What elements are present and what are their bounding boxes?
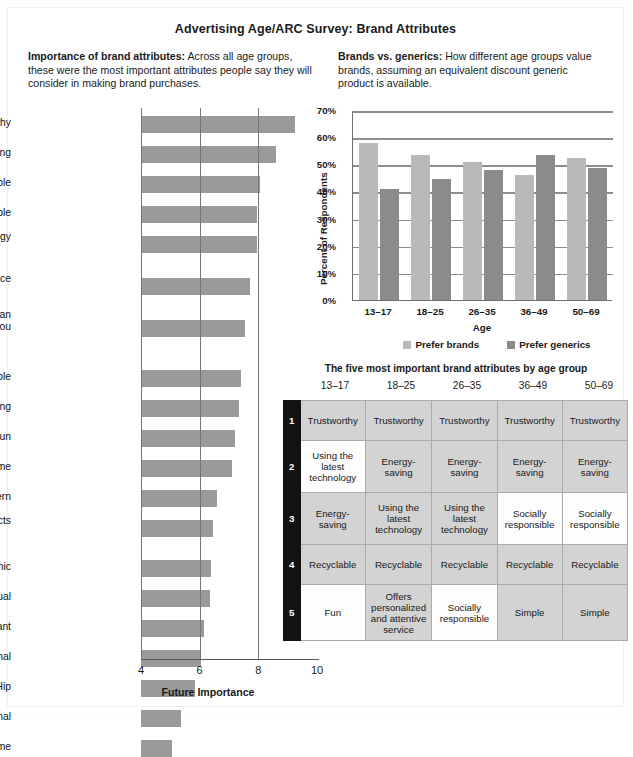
rank-number: 4 xyxy=(284,545,301,585)
table-cell: Simple xyxy=(497,585,562,641)
table-cell: Energy-saving xyxy=(300,493,365,545)
table-cell: Recyclable xyxy=(497,545,562,585)
bar xyxy=(141,740,172,757)
bar xyxy=(141,400,239,417)
bar-label: Personalized or customized products xyxy=(0,515,11,527)
bar-label: Small or space-saving xyxy=(0,401,11,413)
column-bar xyxy=(567,158,586,301)
legend-item: Prefer generics xyxy=(507,339,590,350)
legend-swatch-icon xyxy=(403,341,411,349)
bar xyxy=(141,490,217,507)
chart-legend: Prefer brandsPrefer generics xyxy=(352,339,633,350)
bar-label: Spiritual xyxy=(0,591,11,603)
x-axis-tick: 4 xyxy=(126,664,156,676)
x-axis-tick: 6 xyxy=(185,664,215,676)
bar-label: Trustworthy xyxy=(0,117,11,129)
y-axis-tick: 0% xyxy=(296,295,336,306)
column-bar xyxy=(515,175,534,300)
table-cell: Trustworthy xyxy=(562,401,627,441)
legend-item: Prefer brands xyxy=(403,339,479,350)
legend-label: Prefer brands xyxy=(415,339,479,350)
column-bar xyxy=(463,162,482,300)
bar xyxy=(141,146,276,163)
right-description: Brands vs. generics: How different age g… xyxy=(338,50,603,91)
bar-label: Hip xyxy=(0,681,11,693)
table-column-header: 26–35 xyxy=(435,380,499,391)
y-axis-tick: 60% xyxy=(296,132,336,143)
x-axis-tick: 10 xyxy=(302,664,332,676)
table-cell: Using the latest technology xyxy=(365,493,432,545)
left-description-heading: Importance of brand attributes: xyxy=(28,50,185,62)
bar xyxy=(141,370,241,387)
rank-number: 5 xyxy=(284,585,301,641)
table-title: The five most important brand attributes… xyxy=(287,363,625,374)
y-axis-tick: 70% xyxy=(296,105,336,116)
y-axis-tick: 30% xyxy=(296,214,336,225)
gridline xyxy=(353,111,613,113)
column-bar xyxy=(359,143,378,300)
table-column-headers: 13–1718–2526–3536–4950–69 xyxy=(283,380,628,400)
gridline xyxy=(200,108,201,659)
bar-label: Elegant xyxy=(0,621,11,633)
rank-number: 1 xyxy=(284,401,301,441)
table-row: 4RecyclableRecyclableRecyclableRecyclabl… xyxy=(284,545,628,585)
legend-swatch-icon xyxy=(507,341,515,349)
x-axis-category: 13–17 xyxy=(350,306,406,317)
rank-number: 2 xyxy=(284,441,301,493)
bar xyxy=(141,116,295,133)
bar-label: Multinational xyxy=(0,711,11,723)
bar xyxy=(141,620,204,637)
table-row: 2Using the latest technologyEnergy-savin… xyxy=(284,441,628,493)
column-bar xyxy=(588,168,607,300)
table-cell: Trustworthy xyxy=(365,401,432,441)
bar xyxy=(141,460,232,477)
column-bar xyxy=(380,189,399,300)
brands-vs-generics-chart: Percent of Respondents Age Prefer brands… xyxy=(308,100,633,350)
table-row: 5FunOffers personalized and attentive se… xyxy=(284,585,628,641)
table-cell: Energy-saving xyxy=(562,441,627,493)
table-cell: Energy-saving xyxy=(432,441,497,493)
table-cell: Recyclable xyxy=(365,545,432,585)
table-row: 3Energy-savingUsing the latest technolog… xyxy=(284,493,628,545)
page-title: Advertising Age/ARC Survey: Brand Attrib… xyxy=(8,22,623,36)
bar xyxy=(141,320,245,337)
x-axis-category: 26–35 xyxy=(454,306,510,317)
y-axis-line xyxy=(141,108,142,659)
x-axis-title: Future Importance xyxy=(108,686,308,698)
bar-label: Traditional xyxy=(0,651,11,663)
bar-label: Energy-saving xyxy=(0,147,11,159)
table-cell: Trustworthy xyxy=(497,401,562,441)
bar-label: Simple xyxy=(0,371,11,383)
gridline xyxy=(353,138,613,140)
table-column-header: 18–25 xyxy=(369,380,433,391)
bar-label: Socially responsible xyxy=(0,207,11,219)
column-plot-area xyxy=(352,111,612,301)
bar-label: Offers customer service that makes an ef… xyxy=(0,309,11,332)
column-bar xyxy=(484,170,503,300)
table-cell: Trustworthy xyxy=(300,401,365,441)
y-axis-tick: 50% xyxy=(296,159,336,170)
bar xyxy=(141,710,181,727)
table-cell: Recyclable xyxy=(432,545,497,585)
content-frame: Advertising Age/ARC Survey: Brand Attrib… xyxy=(8,8,623,706)
bar-label: A well-known brand name xyxy=(0,461,11,473)
table-column-header: 13–17 xyxy=(303,380,367,391)
column-bar xyxy=(411,155,430,300)
x-axis-category: 36–49 xyxy=(506,306,562,317)
bar-label: Fun xyxy=(0,431,11,443)
bar xyxy=(141,278,250,295)
bar xyxy=(141,430,235,447)
top-attributes-table: 1TrustworthyTrustworthyTrustworthyTrustw… xyxy=(283,400,628,641)
table-cell: Energy-saving xyxy=(497,441,562,493)
table-cell: Socially responsible xyxy=(432,585,497,641)
bar-label: Extreme xyxy=(0,741,11,753)
table-cell: Socially responsible xyxy=(497,493,562,545)
table-cell: Using the latest technology xyxy=(432,493,497,545)
table-cell: Trustworthy xyxy=(432,401,497,441)
table-cell: Simple xyxy=(562,585,627,641)
bar-label: Offers personalized and attentive servic… xyxy=(0,273,11,285)
bar-label: Modern xyxy=(0,491,11,503)
table-cell: Recyclable xyxy=(562,545,627,585)
rank-number: 3 xyxy=(284,493,301,545)
